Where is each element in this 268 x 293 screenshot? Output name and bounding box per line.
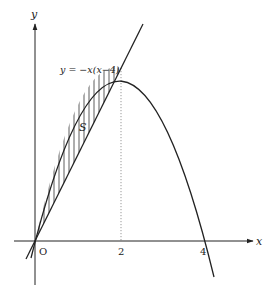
x-tick-2: 2 (118, 246, 124, 257)
x-tick-4: 4 (200, 246, 206, 257)
line-curve (26, 24, 143, 259)
y-axis-label: y (30, 8, 38, 21)
diagram-canvas: y x O 2 4 y = −x(x−4) S (0, 0, 268, 293)
region-label-s: S (79, 121, 87, 134)
origin-label: O (39, 246, 47, 257)
parabola-equation-label: y = −x(x−4) (59, 64, 120, 75)
x-axis-label: x (256, 235, 263, 248)
hatched-region-s (39, 0, 118, 293)
